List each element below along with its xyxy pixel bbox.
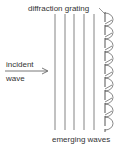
diffraction-diagram: diffraction grating [0, 0, 119, 145]
incident-label-line2: wave [5, 74, 25, 83]
emerging-waves-label: emerging waves [52, 135, 110, 144]
emerging-wavelets [105, 13, 113, 130]
grating-leader-line [99, 8, 105, 14]
diagram-canvas: diffraction grating [0, 0, 119, 145]
incident-wavefronts [55, 14, 94, 130]
incident-label-line1: incident [6, 60, 34, 69]
grating-label: diffraction grating [28, 4, 89, 13]
